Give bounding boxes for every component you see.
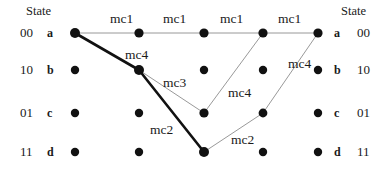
trellis-node-r3-c4[interactable] <box>314 148 322 156</box>
right-binary-label-10: 10 <box>357 63 370 76</box>
node-layer <box>70 28 323 157</box>
trellis-node-r2-c3[interactable] <box>259 109 268 118</box>
trellis-node-r3-c1[interactable] <box>135 148 143 156</box>
trellis-edge-e-c2-a3 <box>204 33 263 113</box>
edge-label-lbl-mc1-2: mc1 <box>163 12 186 26</box>
trellis-node-r0-c3[interactable] <box>258 28 267 37</box>
trellis-node-r2-c2[interactable] <box>199 108 208 117</box>
trellis-node-r1-c4[interactable] <box>314 66 322 74</box>
trellis-node-r3-c3[interactable] <box>259 148 267 156</box>
left-state-label-a: a <box>47 27 53 39</box>
right-state-label-b: b <box>334 64 341 76</box>
trellis-node-r3-c0[interactable] <box>71 148 79 156</box>
left-state-label-d: d <box>47 146 54 158</box>
left-binary-label-01: 01 <box>20 106 33 119</box>
trellis-node-r2-c1[interactable] <box>135 109 143 117</box>
edge-label-lbl-mc1-1: mc1 <box>110 12 133 26</box>
trellis-node-r3-c2[interactable] <box>199 147 209 157</box>
edge-label-lbl-mc2-1: mc2 <box>150 123 173 137</box>
right-state-header: State <box>341 5 366 18</box>
right-binary-label-11: 11 <box>357 145 370 158</box>
trellis-node-r1-c1[interactable] <box>134 65 144 75</box>
left-state-header: State <box>26 5 51 18</box>
trellis-node-r2-c4[interactable] <box>314 109 322 117</box>
trellis-node-r1-c3[interactable] <box>259 66 267 74</box>
edge-label-lbl-mc1-3: mc1 <box>220 12 243 26</box>
trellis-node-r1-c2[interactable] <box>200 66 208 74</box>
left-binary-label-10: 10 <box>20 63 33 76</box>
trellis-canvas <box>0 0 388 173</box>
right-state-label-a: a <box>334 27 340 39</box>
right-state-label-c: c <box>334 107 339 119</box>
trellis-node-r0-c0[interactable] <box>70 28 80 38</box>
trellis-node-r0-c1[interactable] <box>134 28 143 37</box>
left-state-label-c: c <box>47 107 52 119</box>
edge-label-lbl-mc4-1: mc4 <box>125 48 148 62</box>
trellis-node-r0-c2[interactable] <box>199 28 208 37</box>
left-state-label-b: b <box>47 64 54 76</box>
trellis-node-r1-c0[interactable] <box>71 66 79 74</box>
edge-label-lbl-mc4-2: mc4 <box>228 86 251 100</box>
edge-label-lbl-mc3-1: mc3 <box>163 76 186 90</box>
right-binary-label-00: 00 <box>357 26 370 39</box>
edge-layer <box>75 33 318 152</box>
left-binary-label-00: 00 <box>20 26 33 39</box>
edge-label-lbl-mc1-4: mc1 <box>278 12 301 26</box>
trellis-edge-e-c3-a4 <box>263 33 318 113</box>
edge-label-lbl-mc4-3: mc4 <box>288 57 311 71</box>
right-state-label-d: d <box>334 146 341 158</box>
trellis-node-r0-c4[interactable] <box>313 28 322 37</box>
right-binary-label-01: 01 <box>357 106 370 119</box>
left-binary-label-11: 11 <box>20 145 33 158</box>
trellis-node-r2-c0[interactable] <box>71 109 79 117</box>
trellis-diagram: State 00a10b01c11d State a00b10c01d11 mc… <box>0 0 388 173</box>
edge-label-lbl-mc2-2: mc2 <box>231 133 254 147</box>
